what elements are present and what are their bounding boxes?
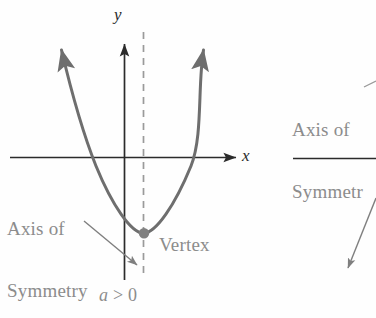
x-axis-label: x xyxy=(242,147,250,164)
condition-relation: > 0 xyxy=(108,285,137,305)
axis-of-symmetry-pointer-arrow xyxy=(84,221,137,265)
axis-of-symmetry-label-line2: Symmetry xyxy=(7,281,88,302)
axis-of-symmetry-label: Axis of Symmetry xyxy=(7,178,88,318)
parabola-figure: y x Axis of Symmetry Vertex a > 0 Axis o… xyxy=(0,0,376,318)
axis-of-symmetry-label-line1: Axis of xyxy=(7,219,88,240)
condition-variable: a xyxy=(99,285,108,305)
right-figure-axis-of-symmetry-label-line1: Axis of xyxy=(292,120,363,141)
condition-label: a > 0 xyxy=(99,286,137,305)
right-figure-axis-of-symmetry-label: Axis of Symmetr xyxy=(292,79,363,243)
vertex-point xyxy=(139,228,149,238)
right-figure-axis-of-symmetry-label-line2: Symmetr xyxy=(292,182,363,203)
parabola-right-branch xyxy=(144,50,204,233)
y-axis-label: y xyxy=(114,6,122,23)
vertex-label: Vertex xyxy=(159,235,210,256)
right-figure-axis-of-symmetry-tick xyxy=(364,81,376,87)
